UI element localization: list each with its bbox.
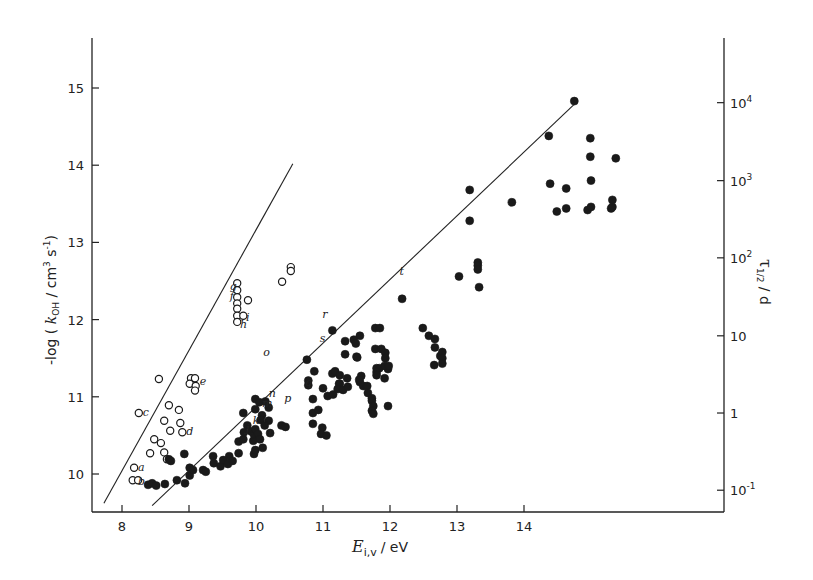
- y2-tick-label: 102: [730, 249, 752, 266]
- filled-circle-point: [235, 449, 243, 457]
- open-circle-point: [161, 449, 168, 456]
- filled-circle-point: [352, 340, 360, 348]
- filled-circle-point: [431, 335, 439, 343]
- filled-circle-point: [570, 97, 578, 105]
- open-circle-point: [177, 419, 184, 426]
- plot-frame: [92, 38, 724, 512]
- point-label: g: [230, 280, 237, 293]
- point-label: o: [263, 346, 270, 359]
- filled-circle-point: [608, 196, 616, 204]
- point-label: k: [253, 414, 260, 427]
- open-circle-point: [167, 427, 174, 434]
- filled-circle-point: [353, 353, 361, 361]
- filled-circle-point: [384, 402, 392, 410]
- filled-circle-point: [309, 395, 317, 403]
- filled-circle-point: [341, 350, 349, 358]
- filled-circle-point: [381, 374, 389, 382]
- point-label: b: [138, 475, 145, 488]
- filled-circle-point: [322, 431, 330, 439]
- y2-tick-label: 104: [730, 94, 753, 111]
- y-tick-label: 12: [67, 313, 84, 328]
- point-label: q: [305, 376, 312, 389]
- filled-circle-point: [303, 356, 311, 364]
- x-tick-label: 8: [118, 519, 126, 534]
- open-circle-point: [191, 387, 198, 394]
- filled-circle-point: [251, 405, 259, 413]
- filled-circle-point: [612, 154, 620, 162]
- filled-circle-point: [430, 361, 438, 369]
- filled-circle-point: [181, 479, 189, 487]
- filled-circle-point: [259, 444, 267, 452]
- filled-circle-point: [152, 482, 160, 490]
- open-circle-point: [175, 406, 182, 413]
- filled-circle-point: [256, 435, 264, 443]
- point-label: i: [246, 311, 250, 324]
- scatter-chart: 891011121314 101112131415 10-11101021031…: [0, 0, 813, 580]
- point-label: s: [320, 332, 326, 345]
- filled-circle-point: [431, 343, 439, 351]
- y-tick-label: 15: [67, 81, 84, 96]
- x-tick-label: 11: [315, 519, 332, 534]
- x-axis-ticks: 891011121314: [118, 505, 532, 534]
- open-circle-point: [179, 429, 186, 436]
- point-label: e: [200, 375, 207, 388]
- y-tick-label: 11: [67, 390, 84, 405]
- filled-circle-point: [587, 177, 595, 185]
- filled-circle-point: [376, 324, 384, 332]
- filled-circle-point: [562, 204, 570, 212]
- filled-circle-point: [562, 184, 570, 192]
- x-tick-label: 9: [185, 519, 193, 534]
- point-label: p: [284, 392, 291, 405]
- open-circle-point: [287, 267, 294, 274]
- open-circle-point: [161, 417, 168, 424]
- filled-circle-point: [475, 283, 483, 291]
- data-points: [129, 97, 620, 490]
- filled-circle-point: [189, 466, 197, 474]
- open-circle-point: [151, 436, 158, 443]
- filled-circle-point: [419, 324, 427, 332]
- filled-circle-point: [328, 326, 336, 334]
- point-label: t: [399, 265, 404, 278]
- filled-circle-point: [586, 134, 594, 142]
- filled-circle-point: [381, 354, 389, 362]
- point-label: c: [143, 406, 149, 419]
- x-tick-label: 12: [382, 519, 399, 534]
- filled-circle-point: [546, 180, 554, 188]
- fit-line: [152, 101, 577, 506]
- fit-line: [104, 164, 293, 504]
- open-circle-point: [165, 402, 172, 409]
- open-circle-point: [244, 297, 251, 304]
- filled-circle-point: [474, 265, 482, 273]
- filled-circle-point: [587, 203, 595, 211]
- filled-circle-point: [239, 409, 247, 417]
- y-axis-ticks: 101112131415: [67, 81, 99, 482]
- open-circle-point: [131, 464, 138, 471]
- x-tick-label: 13: [449, 519, 466, 534]
- open-circle-point: [279, 278, 286, 285]
- filled-circle-point: [508, 198, 516, 206]
- point-label: n: [269, 387, 276, 400]
- filled-circle-point: [251, 446, 259, 454]
- x-tick-label: 10: [248, 519, 265, 534]
- filled-circle-point: [319, 384, 327, 392]
- y-tick-label: 14: [67, 158, 84, 173]
- filled-circle-point: [455, 272, 463, 280]
- y2-axis-ticks: 10-1110102103104: [717, 94, 756, 499]
- y2-tick-label: 10: [730, 329, 747, 344]
- filled-circle-point: [314, 406, 322, 414]
- point-label: d: [186, 425, 193, 438]
- filled-circle-point: [309, 420, 317, 428]
- filled-circle-point: [356, 332, 364, 340]
- filled-circle-point: [173, 476, 181, 484]
- filled-circle-point: [202, 468, 210, 476]
- filled-circle-point: [355, 376, 363, 384]
- filled-circle-point: [180, 450, 188, 458]
- y2-tick-label: 1: [730, 406, 738, 421]
- filled-circle-point: [310, 367, 318, 375]
- filled-circle-point: [369, 410, 377, 418]
- filled-circle-point: [466, 186, 474, 194]
- filled-circle-point: [344, 383, 352, 391]
- filled-circle-point: [167, 457, 175, 465]
- filled-circle-point: [438, 360, 446, 368]
- filled-circle-point: [282, 423, 290, 431]
